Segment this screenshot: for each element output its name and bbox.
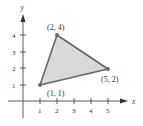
vertex-point: [55, 33, 59, 37]
y-tick-label: 2: [12, 65, 16, 73]
vertex-label: (5, 2): [101, 75, 119, 84]
x-axis: x: [8, 97, 136, 106]
x-tick-label: 4: [89, 107, 93, 115]
vertex-label: (1, 1): [47, 89, 65, 98]
vertex-point: [106, 67, 110, 71]
x-axis-label: x: [131, 97, 136, 106]
y-axis-arrow-icon: [21, 14, 26, 22]
y-tick-label: 1: [12, 82, 16, 90]
triangle-region: [40, 35, 108, 85]
vertex-point: [38, 83, 42, 87]
vertex-label: (2, 4): [47, 23, 65, 32]
x-tick-label: 1: [38, 107, 42, 115]
y-axis-label: y: [20, 3, 25, 12]
y-tick-label: 3: [12, 49, 16, 57]
x-tick-label: 3: [72, 107, 76, 115]
triangle-plot: x y 1 2 3 4 5 1 2 3 4 (1, 1) (2, 4) (5, …: [0, 0, 143, 126]
x-axis-arrow-icon: [120, 99, 128, 104]
y-tick-label: 4: [12, 32, 16, 40]
x-tick-label: 2: [55, 107, 59, 115]
x-tick-label: 5: [106, 107, 110, 115]
